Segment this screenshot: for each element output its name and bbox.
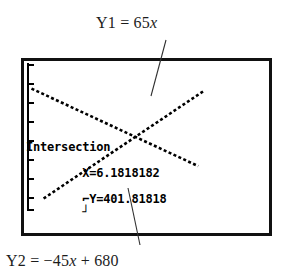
annotation-y2-text: Y2 = −45 (6, 252, 69, 269)
calculator-screen: Intersection X=6.1818182 ⌐Y=401.81818 ┘ (21, 58, 272, 236)
y-axis-tick (29, 102, 34, 104)
y-axis-tick (29, 121, 34, 123)
readout-cursor-marker: ┘ (82, 205, 89, 219)
calculator-readout: Intersection X=6.1818182 ⌐Y=401.81818 ┘ (26, 141, 269, 232)
intersection-x-value: X=6.1818182 (82, 166, 159, 180)
annotation-label-y2: Y2 = −45x + 680 (6, 252, 119, 270)
annotation-y2-variable: x (69, 252, 76, 269)
intersection-coordinates: X=6.1818182 ⌐Y=401.81818 ┘ (26, 154, 269, 232)
annotation-y1-variable: x (150, 14, 157, 31)
y-axis-tick (29, 64, 34, 66)
annotation-label-y1: Y1 = 65x (96, 14, 157, 32)
figure-container: Y1 = 65x (0, 0, 291, 277)
annotation-y1-text: Y1 = 65 (96, 14, 150, 31)
y-axis-tick (29, 83, 34, 85)
annotation-y2-suffix: + 680 (77, 252, 119, 269)
intersection-status-label: Intersection (26, 141, 269, 154)
intersection-y-value: ⌐Y=401.81818 (82, 192, 166, 206)
